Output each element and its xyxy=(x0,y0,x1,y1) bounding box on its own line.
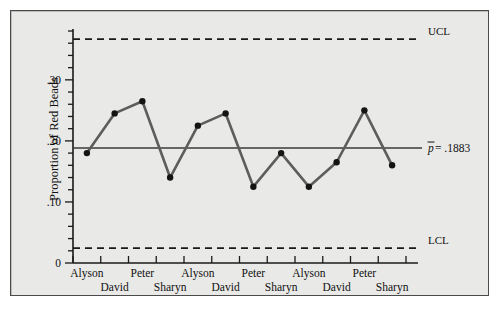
x-category-label: Peter xyxy=(242,267,266,279)
data-point xyxy=(250,183,256,189)
data-point xyxy=(389,162,395,168)
x-category-label: Sharyn xyxy=(154,281,187,294)
p-bar-symbol: p xyxy=(427,142,434,155)
y-tick-label: .10 xyxy=(47,196,62,208)
data-point-markers xyxy=(84,98,396,190)
x-category-label: Sharyn xyxy=(265,281,298,294)
data-point xyxy=(111,110,117,116)
x-category-label: Alyson xyxy=(292,267,325,280)
data-point xyxy=(278,150,284,156)
x-category-label: David xyxy=(323,281,351,293)
plot-area: 0.10.20.30 AlysonDavidPeterSharynAlysonD… xyxy=(11,11,490,297)
data-point xyxy=(306,183,312,189)
chart-panel: Proportion of Red Beads 0.10.20.30 Alyso… xyxy=(10,10,489,296)
x-category-label: Alyson xyxy=(181,267,214,280)
y-axis-tick-labels: 0.10.20.30 xyxy=(47,74,62,269)
data-series-line xyxy=(87,101,392,186)
p-bar-value: = .1883 xyxy=(435,142,470,154)
x-category-label: Sharyn xyxy=(376,281,409,294)
x-category-label: David xyxy=(212,281,240,293)
y-tick-label: .30 xyxy=(47,74,62,86)
data-point xyxy=(361,107,367,113)
y-tick-label: .20 xyxy=(47,135,62,147)
x-axis-category-labels: AlysonDavidPeterSharynAlysonDavidPeterSh… xyxy=(70,267,408,294)
data-point xyxy=(167,174,173,180)
y-tick-label: 0 xyxy=(55,257,61,269)
control-chart-figure: Proportion of Red Beads 0.10.20.30 Alyso… xyxy=(0,0,499,316)
x-category-label: Peter xyxy=(353,267,377,279)
data-point xyxy=(139,98,145,104)
data-point xyxy=(222,110,228,116)
x-category-label: David xyxy=(101,281,129,293)
data-point xyxy=(84,150,90,156)
center-line-label: p = .1883 xyxy=(427,142,470,155)
data-point xyxy=(195,122,201,128)
x-axis-ticks xyxy=(73,256,406,263)
x-category-label: Peter xyxy=(131,267,155,279)
lower-control-limit-label: LCL xyxy=(428,234,449,246)
y-axis-ticks xyxy=(65,31,73,263)
data-point xyxy=(333,159,339,165)
y-axis-title: Proportion of Red Beads xyxy=(29,0,45,11)
x-category-label: Alyson xyxy=(70,267,103,280)
upper-control-limit-label: UCL xyxy=(428,25,450,37)
